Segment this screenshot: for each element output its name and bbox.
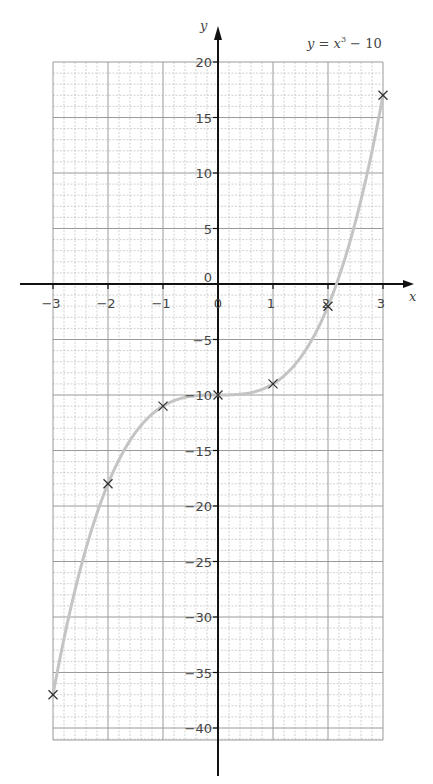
x-tick-label: −3 <box>41 296 60 311</box>
equation-tail: − 10 <box>346 36 382 51</box>
equation-label: y = x3 − 10 <box>306 35 382 51</box>
cubic-graph: 20151050−5−10−15−20−25−30−35−40−3−2−1012… <box>0 0 433 784</box>
y-tick-label: 5 <box>204 222 212 237</box>
x-axis-arrow-icon <box>403 280 414 288</box>
axes <box>20 26 414 776</box>
x-tick-label: 1 <box>267 296 275 311</box>
y-tick-label: −20 <box>185 499 212 514</box>
y-tick-label: 15 <box>195 111 212 126</box>
y-tick-label: −5 <box>193 333 212 348</box>
x-tick-label: −1 <box>151 296 170 311</box>
y-axis-label: y <box>199 18 208 33</box>
y-tick-label: −30 <box>185 610 212 625</box>
x-tick-label: −2 <box>96 296 115 311</box>
y-tick-label: 0 <box>204 270 212 285</box>
y-tick-label: −35 <box>185 666 212 681</box>
x-tick-label: 0 <box>214 296 222 311</box>
y-tick-label: 10 <box>195 166 212 181</box>
x-axis-label: x <box>409 289 417 304</box>
x-tick-label: 2 <box>322 296 330 311</box>
y-tick-label: −10 <box>185 388 212 403</box>
y-tick-label: −40 <box>185 721 212 736</box>
y-axis-arrow-icon <box>214 26 222 40</box>
y-tick-label: −15 <box>185 444 212 459</box>
x-tick-label: 3 <box>377 296 385 311</box>
equation-equals: = <box>314 36 333 51</box>
y-tick-label: 20 <box>195 55 212 70</box>
y-tick-label: −25 <box>185 555 212 570</box>
